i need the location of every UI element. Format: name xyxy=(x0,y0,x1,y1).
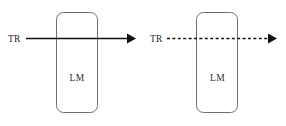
right-lm-box xyxy=(197,13,238,113)
right-panel: TR LM xyxy=(150,13,277,113)
right-arrow-head-icon xyxy=(268,33,277,43)
left-panel: TR LM xyxy=(8,13,136,113)
left-lm-box xyxy=(57,13,98,113)
diagram-svg: TR LM TR LM xyxy=(0,0,286,126)
left-box-label: LM xyxy=(70,73,85,83)
right-input-label: TR xyxy=(150,34,163,44)
diagram-canvas: TR LM TR LM xyxy=(0,0,286,126)
left-arrow-head-icon xyxy=(127,33,136,43)
left-input-label: TR xyxy=(8,34,21,44)
right-box-label: LM xyxy=(210,73,225,83)
